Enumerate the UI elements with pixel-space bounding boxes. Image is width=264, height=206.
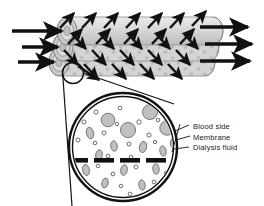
membrane-segment [120, 158, 140, 163]
inset-inner-ring [73, 97, 174, 198]
label-membrane: Membrane [193, 133, 231, 142]
membrane-segment [146, 158, 166, 163]
dialysis-diagram: Blood side Membrane Dialysis fluid [0, 0, 264, 206]
membrane-segment [94, 158, 114, 163]
label-blood-side: Blood side [193, 122, 230, 131]
label-dialysis-fluid: Dialysis fluid [193, 143, 237, 152]
